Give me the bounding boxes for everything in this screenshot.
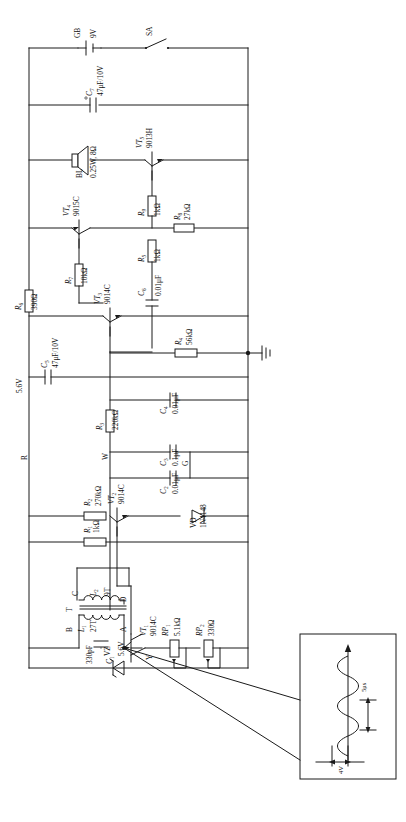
transformer-l2-turns: 9T (103, 587, 112, 596)
capacitor-c3-value: 0.1μF (171, 449, 180, 466)
waveform-amplitude-label: 4V (337, 766, 344, 774)
capacitor-c4-label: C4 (159, 406, 169, 414)
resistor-r2-label: R2 (83, 498, 93, 507)
capacitor-c1-value: 330pF (85, 645, 94, 664)
transistor-vt3-type: 9014C (103, 284, 112, 304)
capacitor-c7-symbol (84, 96, 96, 112)
circuit-svg: GB 9V SA C7 47μF/10V (0, 0, 406, 822)
battery-symbol (78, 41, 101, 55)
battery-ref: GB (73, 28, 82, 38)
ground-symbol (246, 346, 270, 360)
capacitor-c6-symbol (146, 300, 158, 348)
diode-vz-ref: VZ (103, 646, 112, 656)
speaker-rating: 0.25W, 8Ω (89, 145, 98, 178)
switch-symbol (145, 39, 169, 49)
resistor-r2-symbol (84, 512, 106, 520)
transistor-vt3-ref: VT3 (93, 292, 103, 304)
resistor-r4-label: R4 (174, 337, 184, 346)
capacitor-c7-label: C7 (85, 88, 95, 96)
transistor-vt5-type: 9013H (145, 127, 154, 148)
transformer-l2-label: L2 (89, 589, 99, 597)
transformer-tap-d: D (119, 596, 128, 602)
resistor-r5-value: 1kΩ (153, 249, 162, 262)
terminal-g-label: G (181, 460, 190, 466)
diode-vd-type: 1N4148 (199, 504, 208, 528)
resistor-r2-value: 270kΩ (94, 485, 103, 506)
resistor-r7-value: 10kΩ (80, 267, 89, 284)
terminal-w-label: W (101, 453, 110, 460)
terminal-r-label: R (20, 455, 29, 460)
transistor-vt2-type: 9014C (117, 484, 126, 504)
resistor-r6-label: R6 (14, 302, 24, 311)
transistor-vt1-ref: VT1 (139, 624, 149, 636)
potentiometer-rp1-label: RP1 (161, 624, 171, 637)
resistor-r3-value: 220kΩ (111, 409, 120, 430)
resistor-r8-label: R8 (173, 212, 183, 221)
transformer-tap-a: A (119, 626, 128, 632)
capacitor-c2-label: C2 (159, 486, 169, 494)
capacitor-c6-label: C6 (137, 288, 147, 296)
transformer-tap-b: B (65, 627, 74, 632)
capacitor-c5-symbol (45, 370, 51, 384)
schematic-canvas: GB 9V SA C7 47μF/10V (0, 0, 406, 822)
resistor-r3-label: R3 (95, 422, 105, 431)
capacitor-c5-value: 47μF/10V (51, 337, 60, 368)
capacitor-c2-value: 0.01μF (171, 473, 180, 494)
transistor-vt5-ref: VT5 (135, 136, 145, 148)
resistor-r9-label: R9 (137, 208, 147, 217)
transformer-l1-turns: 27T (89, 620, 98, 632)
transistor-vt4-ref: VT4 (62, 204, 72, 216)
resistor-r4-symbol (175, 349, 197, 357)
potentiometer-rp2-label: RP2 (195, 624, 205, 637)
transistor-vt5-symbol (145, 152, 248, 196)
potentiometer-rp1-value: 5.1kΩ (173, 617, 182, 636)
potentiometer-rp1-symbol (170, 640, 200, 668)
waveform-time-label: 5μs (360, 682, 367, 692)
resistor-r8-symbol (174, 224, 194, 232)
transistor-vt2-symbol (110, 508, 180, 586)
switch-ref: SA (145, 26, 154, 36)
rail-5v6-label: 5.6V (15, 378, 24, 393)
transistor-vt1-type: 9014C (149, 616, 158, 636)
diode-vd-ref: VD (189, 517, 198, 528)
potentiometer-rp2-symbol (204, 640, 248, 668)
resistor-r6-value: 390Ω (30, 293, 39, 310)
schematic-page: GB 9V SA C7 47μF/10V (0, 0, 406, 822)
capacitor-c6-value: 0.01μF (154, 275, 163, 296)
resistor-r1-value: 1kΩ (92, 520, 101, 533)
resistor-r9-value: 1kΩ (153, 203, 162, 216)
capacitor-c3-label: C3 (159, 458, 169, 466)
speaker-ref: BL (75, 168, 84, 178)
resistor-r7-label: R7 (64, 276, 74, 285)
resistor-r5-label: R5 (137, 254, 147, 263)
transformer-ref: T (65, 607, 74, 612)
capacitor-c4-value: 0.01μF (171, 393, 180, 414)
capacitor-c5-label: C5 (40, 360, 50, 368)
transistor-vt2-ref: VT2 (107, 492, 117, 504)
capacitor-c7-value: 47μF/10V (96, 65, 105, 96)
waveform-inset: 5μs 4V (300, 634, 396, 779)
callout-line-lower (124, 648, 300, 760)
battery-value: 9V (89, 28, 98, 38)
resistor-r8-value: 27kΩ (183, 203, 192, 220)
transistor-vt4-type: 9015C (72, 196, 81, 216)
resistor-r4-value: 56kΩ (185, 328, 194, 345)
transformer-tap-c: C (71, 591, 80, 596)
potentiometer-rp2-value: 330Ω (207, 619, 216, 636)
resistor-r1-symbol (84, 538, 106, 546)
